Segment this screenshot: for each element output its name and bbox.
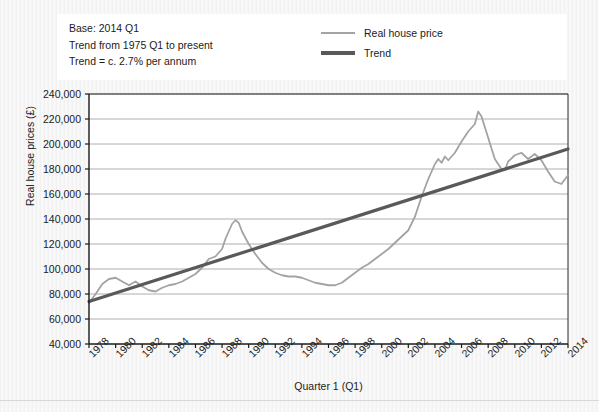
y-tick-label: 240,000 bbox=[0, 88, 81, 100]
y-tick-label: 160,000 bbox=[0, 188, 81, 200]
y-tick-label: 180,000 bbox=[0, 163, 81, 175]
y-tick-label: 40,000 bbox=[0, 338, 81, 350]
x-axis-title: Quarter 1 (Q1) bbox=[89, 380, 568, 392]
y-tick-label: 100,000 bbox=[0, 263, 81, 275]
y-tick-label: 140,000 bbox=[0, 213, 81, 225]
y-tick-label: 60,000 bbox=[0, 313, 81, 325]
y-tick-label: 80,000 bbox=[0, 288, 81, 300]
y-axis-title: Real house prices (£) bbox=[24, 76, 36, 236]
plot-area: Real house prices (£) Quarter 1 (Q1) 40,… bbox=[0, 0, 599, 412]
y-tick-label: 220,000 bbox=[0, 113, 81, 125]
y-tick-label: 120,000 bbox=[0, 238, 81, 250]
chart-figure: Base: 2014 Q1 Trend from 1975 Q1 to pres… bbox=[0, 0, 599, 412]
y-tick-label: 200,000 bbox=[0, 138, 81, 150]
